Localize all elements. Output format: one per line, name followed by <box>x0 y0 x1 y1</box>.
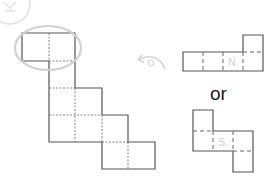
rotate-arrow-icon <box>138 55 165 69</box>
alternative-net-a: N. <box>183 35 263 71</box>
alternative-net-b: S. <box>193 110 253 172</box>
diagram-canvas: N. or S. <box>0 0 275 185</box>
net-outline <box>22 33 155 169</box>
face-label-s: S. <box>218 136 228 148</box>
or-label: or <box>210 83 228 104</box>
lightbulb-icon <box>0 0 30 24</box>
staircase-net <box>22 33 155 169</box>
face-label-n: N. <box>228 56 239 68</box>
